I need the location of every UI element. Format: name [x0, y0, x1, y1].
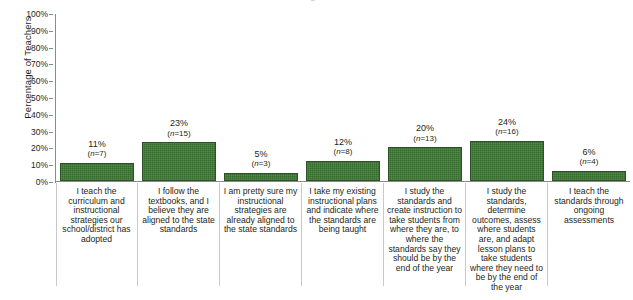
- bar[interactable]: [552, 171, 626, 181]
- bar-column: 12%(n=8): [302, 13, 384, 181]
- category-label: I study the standards, determine outcome…: [466, 183, 547, 293]
- y-tick-label: 30%: [2, 128, 48, 137]
- y-axis-title: Percentage of Teachers: [22, 0, 33, 143]
- bar-value-label: 5%(n=3): [220, 149, 302, 170]
- bar-count-text: (n=4): [548, 157, 630, 168]
- bar-value-label: 11%(n=7): [56, 139, 138, 160]
- y-tick-label: 60%: [2, 77, 48, 86]
- bar-count-text: (n=8): [302, 147, 384, 158]
- category-label: I am pretty sure my instructional strate…: [220, 183, 301, 235]
- y-tick-mark: [49, 31, 53, 32]
- y-tick-label: 0%: [2, 178, 48, 187]
- y-tick-mark: [49, 182, 53, 183]
- category-label: I take my existing instructional plans a…: [302, 183, 383, 235]
- bar-count-text: (n=13): [384, 134, 466, 145]
- y-tick-mark: [49, 64, 53, 65]
- category-cell: I study the standards, determine outcome…: [466, 183, 548, 286]
- y-tick-mark: [49, 14, 53, 15]
- bar[interactable]: [142, 142, 216, 181]
- bar-column: 11%(n=7): [56, 13, 138, 181]
- category-label: I follow the textbooks, and I believe th…: [138, 183, 219, 235]
- category-cell: I am pretty sure my instructional strate…: [220, 183, 302, 286]
- bar-value-label: 23%(n=15): [138, 118, 220, 139]
- bar-percent-text: 24%: [466, 117, 548, 128]
- category-label: I teach the standards through ongoing as…: [548, 183, 630, 225]
- y-tick-label: 70%: [2, 60, 48, 69]
- y-tick-mark: [49, 115, 53, 116]
- x-axis-line: [55, 181, 630, 182]
- y-tick-mark: [49, 132, 53, 133]
- category-cell: I teach the curriculum and instructional…: [56, 183, 138, 286]
- y-tick-label: 40%: [2, 111, 48, 120]
- bar-column: 5%(n=3): [220, 13, 302, 181]
- y-tick-mark: [49, 81, 53, 82]
- y-tick-label: 20%: [2, 144, 48, 153]
- bar-value-label: 12%(n=8): [302, 137, 384, 158]
- bar[interactable]: [306, 161, 380, 181]
- figure-title-remnant: Figure: [0, 0, 633, 3]
- bar[interactable]: [470, 141, 544, 181]
- y-tick-label: 10%: [2, 161, 48, 170]
- bar-percent-text: 11%: [56, 139, 138, 150]
- category-cell: I take my existing instructional plans a…: [302, 183, 384, 286]
- category-label: I study the standards and create instruc…: [384, 183, 465, 273]
- category-cell: I teach the standards through ongoing as…: [548, 183, 630, 286]
- y-tick-label: 100%: [2, 10, 48, 19]
- bar-column: 24%(n=16): [466, 13, 548, 181]
- bar-count-text: (n=16): [466, 127, 548, 138]
- bar[interactable]: [388, 147, 462, 181]
- bar[interactable]: [60, 163, 134, 181]
- y-tick-mark: [49, 165, 53, 166]
- y-tick-label: 90%: [2, 27, 48, 36]
- y-tick-mark: [49, 148, 53, 149]
- bar-percent-text: 23%: [138, 118, 220, 129]
- plot-area: 100%90%80%70%60%50%40%30%20%10%0% 11%(n=…: [55, 14, 630, 182]
- bar-series: 11%(n=7)23%(n=15)5%(n=3)12%(n=8)20%(n=13…: [56, 13, 630, 181]
- category-cell: I follow the textbooks, and I believe th…: [138, 183, 220, 286]
- bar-column: 23%(n=15): [138, 13, 220, 181]
- bar[interactable]: [224, 173, 298, 181]
- bar-percent-text: 5%: [220, 149, 302, 160]
- category-cell: I study the standards and create instruc…: [384, 183, 466, 286]
- bar-percent-text: 12%: [302, 137, 384, 148]
- y-tick-label: 80%: [2, 44, 48, 53]
- bar-value-label: 24%(n=16): [466, 117, 548, 138]
- bar-percent-text: 6%: [548, 147, 630, 158]
- y-tick-label: 50%: [2, 94, 48, 103]
- bar-count-text: (n=3): [220, 159, 302, 170]
- category-labels-row: I teach the curriculum and instructional…: [56, 183, 630, 286]
- bar-percent-text: 20%: [384, 123, 466, 134]
- bar-count-text: (n=15): [138, 129, 220, 140]
- bar-value-label: 6%(n=4): [548, 147, 630, 168]
- bar-count-text: (n=7): [56, 149, 138, 160]
- bar-column: 20%(n=13): [384, 13, 466, 181]
- bar-value-label: 20%(n=13): [384, 123, 466, 144]
- category-label: I teach the curriculum and instructional…: [56, 183, 137, 245]
- chart-page: Figure Percentage of Teachers 100%90%80%…: [0, 0, 633, 300]
- y-tick-mark: [49, 48, 53, 49]
- y-tick-mark: [49, 98, 53, 99]
- bar-column: 6%(n=4): [548, 13, 630, 181]
